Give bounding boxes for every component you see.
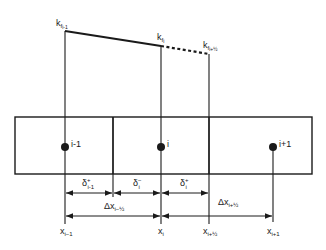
- node-label-i-minus-1: i-1: [71, 139, 81, 149]
- nodes: [61, 143, 277, 151]
- dx-label-i-plus-half: Δxi+½: [218, 197, 238, 208]
- node-i-minus-1-dot: [61, 143, 69, 151]
- x-label-i-plus-half: xi+½: [203, 226, 217, 237]
- node-i-dot: [157, 143, 165, 151]
- solid-slope-line: [65, 31, 161, 46]
- delta-label-plus-i: δ+i: [180, 177, 189, 190]
- vertical-lines: [65, 31, 273, 224]
- permeability-profile: [65, 31, 209, 54]
- dashed-slope-line: [161, 46, 209, 54]
- x-label-i-minus-1: xi−1: [60, 226, 73, 237]
- node-label-i-plus-1: i+1: [279, 139, 291, 149]
- x-label-i-plus-1: xi+1: [267, 226, 280, 237]
- k-label-i-plus-half: kfi+½: [203, 40, 218, 52]
- diagram-canvas: i-1 i i+1 kfi-1 kfi kfi+½ δ+i-1 δ−i δ+i …: [0, 0, 326, 250]
- delta-label-minus-i: δ−i: [133, 177, 142, 190]
- dx-label-i-minus-half: Δxi−½: [104, 201, 124, 212]
- k-label-i: kfi: [157, 32, 164, 44]
- node-label-i: i: [167, 139, 169, 149]
- x-label-i: xi: [158, 226, 164, 237]
- k-label-i-minus-1: kfi-1: [56, 18, 68, 30]
- node-i-plus-1-dot: [269, 143, 277, 151]
- delta-label-plus-i-minus-1: δ+i-1: [82, 177, 95, 190]
